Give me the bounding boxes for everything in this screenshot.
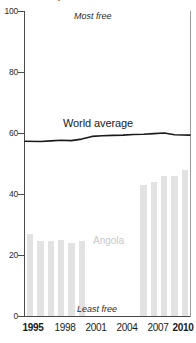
annotation-world-average: World average [63,117,133,129]
bar-2006 [140,185,146,316]
bar-2008 [161,176,167,316]
y-label-60: 60 [9,128,18,138]
y-label-100: 100 [4,6,18,16]
bar-1999 [68,243,74,316]
y-tick-60 [18,133,24,134]
bar-2010 [182,170,188,316]
x-label-2001: 2001 [85,322,106,333]
world-average-line [25,133,190,142]
annotation-least-free: Least free [77,304,117,314]
y-axis-line [24,11,25,316]
y-tick-100 [18,11,24,12]
x-label-2004: 2004 [116,322,137,333]
annotation-angola: Angola [93,235,124,246]
x-label-1995: 1995 [22,322,43,333]
y-label-0: 0 [13,311,18,321]
y-label-80: 80 [9,67,18,77]
bar-1997 [48,241,54,316]
bar-1996 [37,241,43,316]
x-label-1998: 1998 [54,322,75,333]
x-label-2007: 2007 [147,322,168,333]
bar-2007 [151,182,157,316]
bar-2009 [171,176,177,316]
y-label-20: 20 [9,250,18,260]
y-tick-20 [18,255,24,256]
y-tick-0 [18,316,24,317]
bar-1995 [27,234,33,316]
plot-right-border [190,11,191,317]
y-tick-40 [18,194,24,195]
y-label-40: 40 [9,189,18,199]
y-tick-80 [18,72,24,73]
cropped-title-fragment: f [0,0,196,4]
bar-1998 [58,240,64,316]
x-axis-line [24,316,191,317]
annotation-most-free: Most free [74,11,112,21]
chart-container: f 100 80 60 40 20 0 1995 1998 2001 2004 … [0,0,196,343]
title-fragment-glyph: f [58,0,61,3]
x-label-2010: 2010 [172,322,193,333]
